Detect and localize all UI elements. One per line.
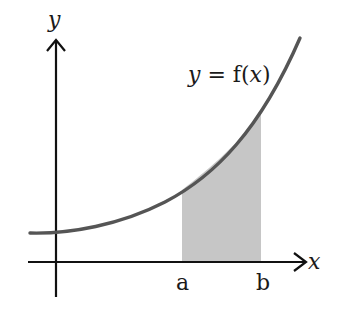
y-axis-label: y [47,7,61,32]
upper-bound-label: b [256,270,270,295]
lower-bound-label: a [176,270,189,295]
curve-label-var: x [250,62,263,87]
curve-label: y = f(x) [187,62,271,87]
curve-label-lhs: y [187,62,201,87]
curve-label-eq: = [200,62,232,87]
x-axis-label: x [308,249,321,274]
shaded-area [182,113,261,262]
curve-label-fn: f( [233,62,250,87]
integral-diagram: y x y = f(x) a b [0,0,349,318]
curve-label-close: ) [262,62,271,87]
